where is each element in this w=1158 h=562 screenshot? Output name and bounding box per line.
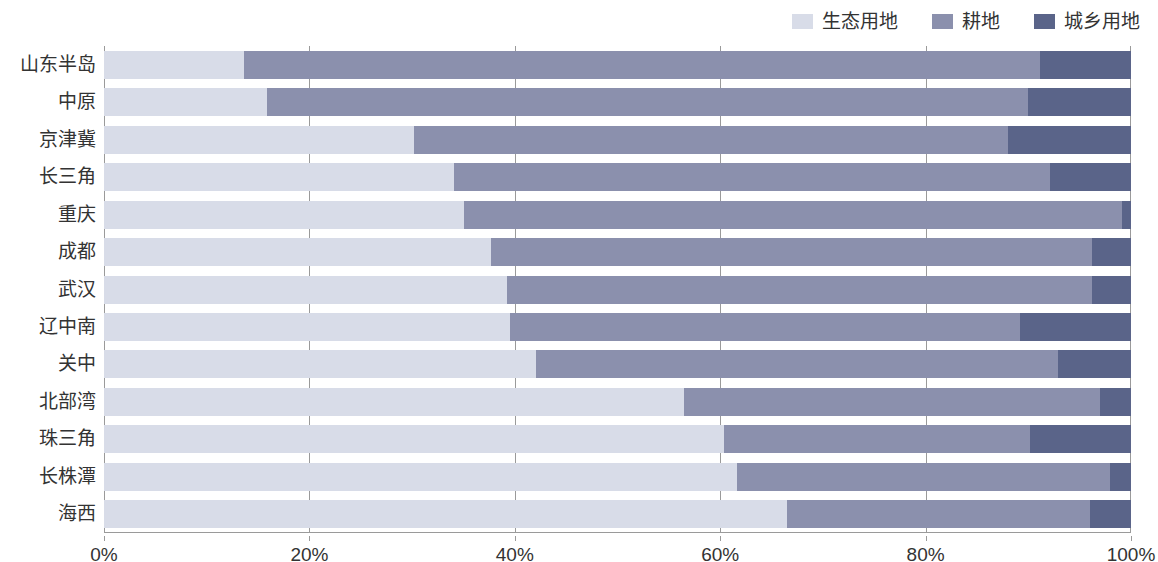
bar-row[interactable]	[104, 163, 1131, 191]
bar-segment[interactable]	[684, 388, 1100, 416]
bar-segment[interactable]	[104, 88, 267, 116]
bar-segment[interactable]	[104, 500, 787, 528]
stacked-bar-chart: 生态用地 耕地 城乡用地 山东半岛中原京津冀长三角重庆成都武汉辽中南关中北部湾珠…	[0, 0, 1158, 562]
bar-row[interactable]	[104, 126, 1131, 154]
bar-segment[interactable]	[536, 350, 1058, 378]
bar-segment[interactable]	[104, 238, 491, 266]
bar-row[interactable]	[104, 425, 1131, 453]
plot-area	[104, 46, 1131, 533]
bar-segment[interactable]	[1110, 463, 1131, 491]
bar-row[interactable]	[104, 313, 1131, 341]
y-axis-tick-label: 成都	[0, 242, 96, 262]
y-axis-tick-label: 山东半岛	[0, 55, 96, 75]
bar-row[interactable]	[104, 500, 1131, 528]
bar-segment[interactable]	[1020, 313, 1131, 341]
x-axis-tick	[515, 536, 516, 541]
bar-segment[interactable]	[414, 126, 1008, 154]
x-axis-tick-label: 40%	[496, 544, 534, 562]
x-axis-tick	[309, 536, 310, 541]
y-axis-tick-label: 中原	[0, 92, 96, 112]
x-axis-tick-label: 80%	[907, 544, 945, 562]
x-axis-tick-label: 60%	[701, 544, 739, 562]
x-axis-tick-label: 100%	[1107, 544, 1156, 562]
bar-segment[interactable]	[1050, 163, 1131, 191]
bar-segment[interactable]	[104, 313, 510, 341]
bar-segment[interactable]	[1058, 350, 1131, 378]
chart-legend: 生态用地 耕地 城乡用地	[792, 8, 1140, 34]
bar-segment[interactable]	[1092, 276, 1131, 304]
y-axis-tick-label: 海西	[0, 504, 96, 524]
bar-segment[interactable]	[104, 126, 414, 154]
bar-segment[interactable]	[1090, 500, 1131, 528]
bar-row[interactable]	[104, 51, 1131, 79]
y-axis-tick-label: 长株潭	[0, 467, 96, 487]
legend-item-ecological[interactable]: 生态用地	[792, 12, 898, 31]
bar-series-container	[104, 46, 1131, 533]
bar-segment[interactable]	[1100, 388, 1131, 416]
bar-segment[interactable]	[1122, 201, 1131, 229]
legend-swatch-urban-rural-icon	[1034, 14, 1055, 29]
legend-item-urban-rural[interactable]: 城乡用地	[1034, 12, 1140, 31]
y-axis-tick-label: 珠三角	[0, 429, 96, 449]
bar-segment[interactable]	[1092, 238, 1131, 266]
bar-segment[interactable]	[267, 88, 1028, 116]
bar-segment[interactable]	[507, 276, 1092, 304]
bar-row[interactable]	[104, 350, 1131, 378]
y-axis-tick-label: 辽中南	[0, 317, 96, 337]
y-axis-tick-label: 关中	[0, 354, 96, 374]
bar-segment[interactable]	[104, 51, 244, 79]
bar-row[interactable]	[104, 201, 1131, 229]
bar-segment[interactable]	[1040, 51, 1131, 79]
legend-swatch-ecological-icon	[792, 14, 813, 29]
bar-segment[interactable]	[510, 313, 1020, 341]
bar-row[interactable]	[104, 388, 1131, 416]
bar-segment[interactable]	[1008, 126, 1131, 154]
legend-label-ecological: 生态用地	[822, 12, 898, 31]
bar-segment[interactable]	[104, 425, 724, 453]
bar-segment[interactable]	[104, 350, 536, 378]
bar-row[interactable]	[104, 463, 1131, 491]
bar-segment[interactable]	[104, 463, 737, 491]
bar-segment[interactable]	[1028, 88, 1131, 116]
bar-segment[interactable]	[737, 463, 1111, 491]
bar-segment[interactable]	[104, 163, 454, 191]
bar-segment[interactable]	[1030, 425, 1131, 453]
bar-segment[interactable]	[464, 201, 1121, 229]
bar-row[interactable]	[104, 276, 1131, 304]
bar-segment[interactable]	[104, 388, 684, 416]
bar-segment[interactable]	[454, 163, 1050, 191]
y-axis-labels: 山东半岛中原京津冀长三角重庆成都武汉辽中南关中北部湾珠三角长株潭海西	[0, 46, 96, 533]
bar-segment[interactable]	[104, 276, 507, 304]
y-axis-tick-label: 京津冀	[0, 130, 96, 150]
x-axis-tick	[1131, 536, 1132, 541]
bar-row[interactable]	[104, 238, 1131, 266]
bar-row[interactable]	[104, 88, 1131, 116]
bar-segment[interactable]	[724, 425, 1030, 453]
legend-label-cultivated: 耕地	[962, 12, 1000, 31]
x-axis-tick	[720, 536, 721, 541]
x-axis-tick-label: 20%	[290, 544, 328, 562]
y-axis-tick-label: 重庆	[0, 205, 96, 225]
legend-label-urban-rural: 城乡用地	[1064, 12, 1140, 31]
legend-swatch-cultivated-icon	[932, 14, 953, 29]
bar-segment[interactable]	[787, 500, 1090, 528]
y-axis-tick-label: 北部湾	[0, 392, 96, 412]
legend-item-cultivated[interactable]: 耕地	[932, 12, 1000, 31]
y-axis-tick-label: 长三角	[0, 167, 96, 187]
x-axis-tick-label: 0%	[90, 544, 117, 562]
y-axis-tick-label: 武汉	[0, 280, 96, 300]
bar-segment[interactable]	[104, 201, 464, 229]
x-axis-tick	[104, 536, 105, 541]
x-axis-tick	[926, 536, 927, 541]
bar-segment[interactable]	[491, 238, 1092, 266]
x-axis-labels: 0%20%40%60%80%100%	[0, 536, 1158, 562]
bar-segment[interactable]	[244, 51, 1040, 79]
